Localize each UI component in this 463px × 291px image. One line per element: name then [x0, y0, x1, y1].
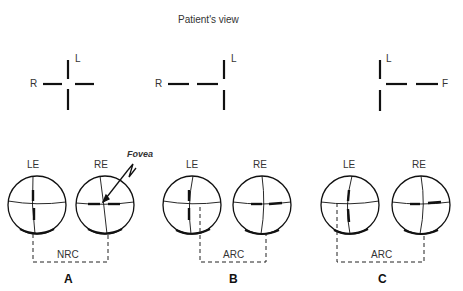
patient-view-b-cross: [168, 60, 224, 110]
panel-b-re-label: RE: [253, 160, 267, 170]
panel-a-correspondence-label: NRC: [57, 250, 79, 260]
patient-view-a-top-label: L: [75, 54, 81, 64]
patient-view-c-cross: [380, 60, 438, 111]
panel-c-right-eye: [392, 176, 450, 234]
panel-b-le-label: LE: [186, 160, 198, 170]
diagram-canvas: [0, 0, 463, 291]
panel-a-letter: A: [64, 273, 73, 285]
patient-view-a-cross: [43, 60, 94, 110]
panel-a-le-label: LE: [27, 160, 39, 170]
patient-view-b-left-label: R: [155, 79, 162, 89]
panel-c-le-label: LE: [343, 160, 355, 170]
panel-b-right-eye: [233, 176, 291, 234]
panel-c-left-eye: [321, 176, 379, 234]
panel-c-re-label: RE: [412, 160, 426, 170]
panel-b-left-eye: [163, 176, 221, 234]
panel-a-left-eye: [8, 176, 66, 234]
panel-b-letter: B: [229, 273, 238, 285]
fovea-label: Fovea: [127, 150, 153, 159]
panel-a-re-label: RE: [94, 160, 108, 170]
patient-view-c-right-label: F: [442, 79, 448, 89]
panel-c-correspondence-label: ARC: [371, 250, 392, 260]
patient-view-c-top-label: L: [386, 54, 392, 64]
patient-view-b-top-label: L: [231, 54, 237, 64]
panel-b-correspondence-label: ARC: [223, 250, 244, 260]
patient-view-a-left-label: R: [30, 79, 37, 89]
panel-a-right-eye: [76, 176, 134, 234]
panel-c-letter: C: [378, 273, 387, 285]
